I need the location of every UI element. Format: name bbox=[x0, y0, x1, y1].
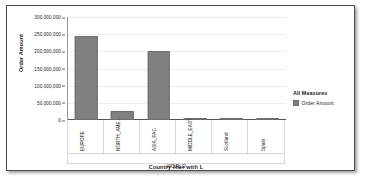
y-axis-tick-labels: 300,000,000250,000,000200,000,000150,000… bbox=[19, 17, 65, 120]
bar-slot bbox=[141, 17, 177, 120]
y-axis-tick-label: 200,000,000 bbox=[34, 49, 61, 54]
bar-slot bbox=[177, 17, 213, 120]
bar-slot bbox=[104, 17, 140, 120]
y-axis-tick-label: 50,000,000 bbox=[37, 100, 61, 105]
bar[interactable] bbox=[111, 111, 134, 120]
category-label: Spain bbox=[261, 139, 266, 151]
group-band: WORLD bbox=[67, 154, 285, 164]
category-cell: EUROPE bbox=[68, 120, 104, 153]
legend-title: All Measures bbox=[293, 90, 353, 96]
y-axis-tick-label: 100,000,000 bbox=[34, 83, 61, 88]
bar-slot bbox=[250, 17, 286, 120]
legend: All Measures Order Amount bbox=[293, 90, 353, 106]
category-cell: MIDDLE_EAST bbox=[176, 120, 212, 153]
bar[interactable] bbox=[75, 36, 98, 120]
category-cell: NORTH_AME... bbox=[104, 120, 140, 153]
y-axis-tick-label: 250,000,000 bbox=[34, 32, 61, 37]
category-label-band: EUROPENORTH_AME...ASIA_PACMIDDLE_EASTSco… bbox=[67, 120, 285, 154]
chart-plot-wrapper: Order Amount 300,000,000250,000,000200,0… bbox=[7, 6, 354, 170]
legend-label: Order Amount bbox=[302, 100, 334, 106]
x-axis-title: Country Hier with L bbox=[67, 164, 285, 170]
chart-panel: Order Amount 300,000,000250,000,000200,0… bbox=[6, 5, 355, 171]
bar[interactable] bbox=[148, 51, 171, 120]
legend-swatch-icon bbox=[293, 100, 299, 106]
bar-slot bbox=[68, 17, 104, 120]
category-cell: ASIA_PAC bbox=[140, 120, 176, 153]
legend-items: Order Amount bbox=[293, 100, 353, 106]
y-axis-tick-label: 300,000,000 bbox=[34, 15, 61, 20]
y-axis-tick-label: 0 bbox=[58, 118, 61, 123]
category-label: EUROPE bbox=[80, 131, 85, 151]
category-label: Scotland bbox=[224, 132, 229, 151]
plot-area bbox=[67, 17, 286, 120]
bar-slot bbox=[213, 17, 249, 120]
category-cell: Scotland bbox=[212, 120, 248, 153]
category-label: MIDDLE_EAST bbox=[188, 118, 193, 151]
y-axis-tick-label: 150,000,000 bbox=[34, 66, 61, 71]
legend-item[interactable]: Order Amount bbox=[293, 100, 353, 106]
category-label: NORTH_AME... bbox=[116, 117, 121, 151]
category-cell: Spain bbox=[248, 120, 284, 153]
category-label: ASIA_PAC bbox=[152, 128, 157, 151]
